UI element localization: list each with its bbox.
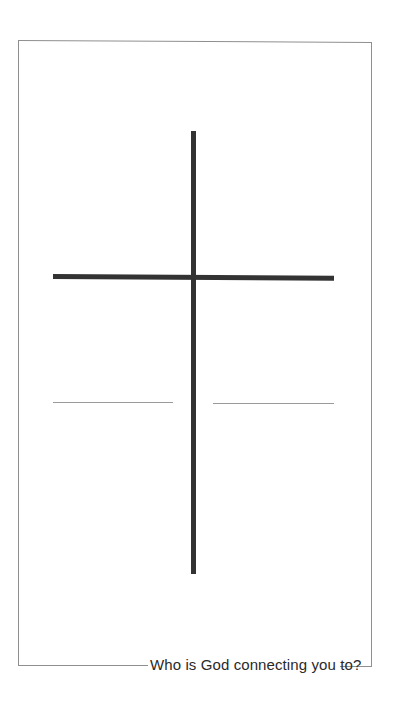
frame-right-border: [371, 42, 372, 667]
cross-horizontal-beam: [53, 274, 334, 281]
caption-prompt: Who is God connecting you to?: [150, 655, 336, 675]
frame-left-border: [18, 40, 19, 666]
cross-vertical-beam: [191, 131, 196, 574]
left-write-line[interactable]: [53, 402, 173, 403]
frame-bottom-border-left: [18, 665, 148, 666]
worksheet-page: Who is God connecting you to?: [0, 0, 400, 716]
right-write-line[interactable]: [213, 403, 334, 404]
frame-top-border: [18, 40, 372, 43]
